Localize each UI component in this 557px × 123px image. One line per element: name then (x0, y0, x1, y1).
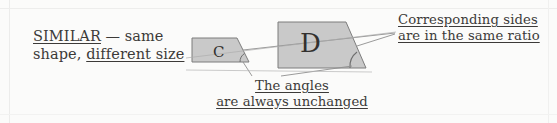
callout-sides-line2: are in the same ratio (398, 28, 540, 43)
similar-line1-rest: same (125, 28, 164, 44)
similar-definition-text: SIMILAR — same shape, different size (33, 28, 184, 63)
similar-dash: — (101, 28, 125, 44)
similar-line2-plain: shape, (33, 46, 86, 62)
similar-line2-underlined: different size (86, 46, 184, 62)
shape-c-label: C (213, 45, 224, 60)
callout-sides-line1: Corresponding sides (398, 12, 538, 27)
leader-angles-to-shape-c (243, 62, 252, 76)
construction-line-lower (186, 70, 372, 72)
callout-corresponding-sides: Corresponding sides are in the same rati… (398, 12, 540, 44)
shape-d-label: D (300, 30, 321, 56)
callout-the-angles: The angles are always unchanged (212, 78, 372, 110)
callout-angles-line1: The angles (255, 78, 329, 93)
callout-angles-line2: are always unchanged (216, 94, 368, 109)
similar-term: SIMILAR (33, 28, 101, 44)
similar-shapes-figure: SIMILAR — same shape, different size Cor… (0, 0, 557, 123)
